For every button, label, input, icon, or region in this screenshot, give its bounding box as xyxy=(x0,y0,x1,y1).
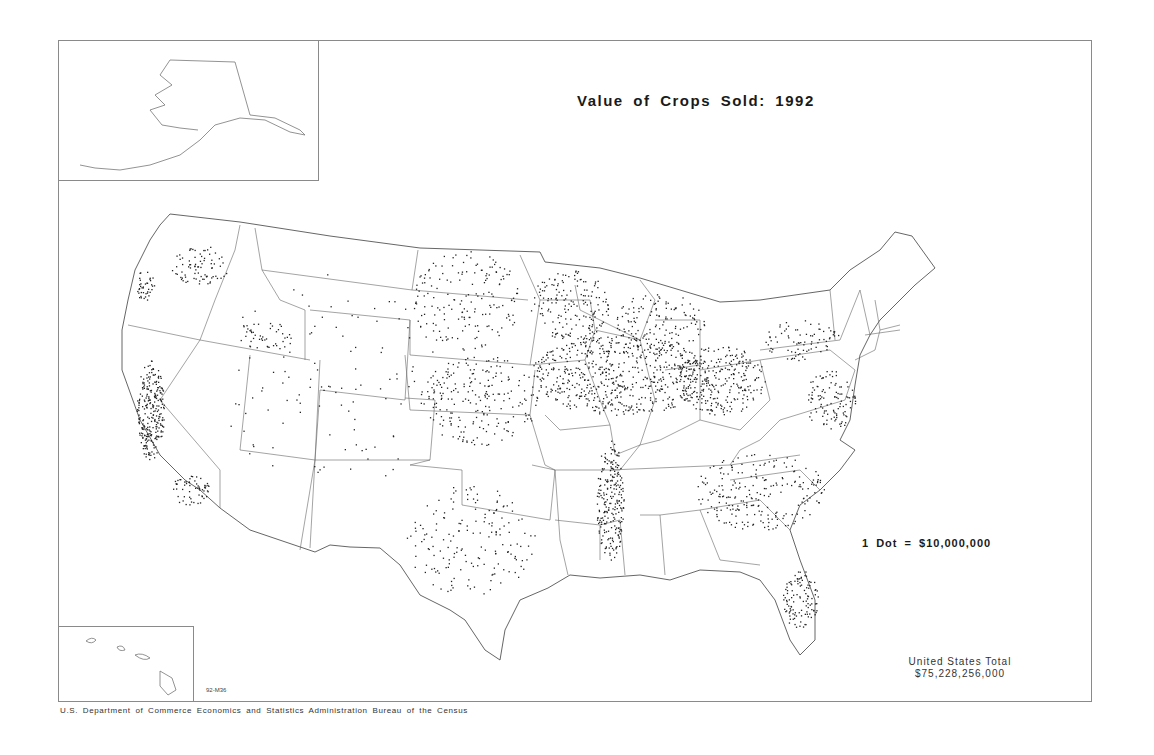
map-title: Value of Crops Sold: 1992 xyxy=(577,92,815,109)
us-total: United States Total $75,228,256,000 xyxy=(870,656,1050,680)
us-total-value: $75,228,256,000 xyxy=(870,668,1050,680)
source-footer: U.S. Department of Commerce Economics an… xyxy=(60,706,468,715)
alaska-outline xyxy=(80,60,305,170)
hawaii-outline xyxy=(86,638,176,695)
us-map xyxy=(0,0,1154,755)
us-total-label: United States Total xyxy=(870,656,1050,668)
map-code: 92-M36 xyxy=(206,687,226,693)
crop-value-dots xyxy=(137,247,857,628)
us-outline xyxy=(122,214,935,660)
dot-legend: 1 Dot = $10,000,000 xyxy=(862,537,991,549)
state-boundaries xyxy=(128,225,900,575)
